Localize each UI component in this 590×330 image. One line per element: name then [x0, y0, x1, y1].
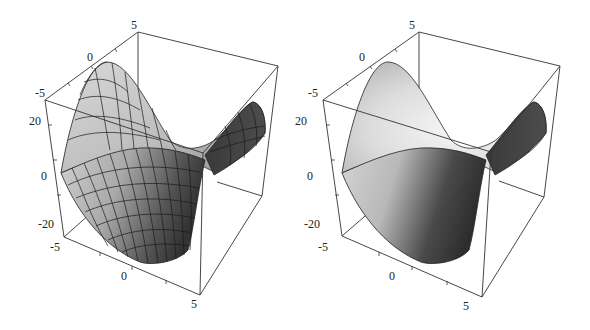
tick-label-bottom-front: 5	[191, 297, 197, 311]
tick-label-z-bot: -20	[38, 217, 54, 231]
tick-label-bottom-mid: 0	[389, 269, 395, 283]
tick-label-z-bot: -20	[304, 217, 320, 231]
tick-label-z-top: 20	[29, 114, 41, 128]
tick-label-bottom-mid: 0	[121, 269, 127, 283]
tick-label-bottom-left: -5	[50, 240, 60, 254]
tick-label-bottom-left: -5	[318, 240, 328, 254]
tick-label-top-left: -5	[35, 86, 45, 100]
tick-label-z-mid: 0	[307, 169, 313, 183]
tick-label-z-top: 20	[295, 114, 307, 128]
figure: 5 0 -5 20 0 -20 -5 0 5	[0, 0, 590, 330]
tick-label-z-mid: 0	[41, 169, 47, 183]
tick-label-bottom-front: 5	[463, 299, 469, 313]
tick-label-top-mid: 0	[87, 50, 93, 64]
right-surface-plot: 5 0 -5 20 0 -20 -5 0 5	[295, 18, 560, 313]
surface-wing	[486, 102, 546, 175]
tick-label-top-mid: 0	[359, 50, 365, 64]
surface-front-face	[342, 148, 486, 264]
tick-label-top-left: -5	[308, 86, 318, 100]
tick-label-top-back: 5	[131, 18, 137, 32]
left-surface-plot: 5 0 -5 20 0 -20 -5 0 5	[29, 18, 278, 311]
tick-label-top-back: 5	[409, 18, 415, 32]
